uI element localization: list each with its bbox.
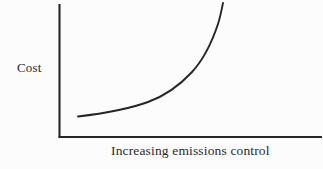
cost-curve [78, 3, 223, 117]
cost-vs-emissions-control-figure: Cost Increasing emissions control [0, 0, 323, 169]
y-axis-label: Cost [17, 61, 41, 74]
x-axis-label: Increasing emissions control [111, 144, 270, 158]
